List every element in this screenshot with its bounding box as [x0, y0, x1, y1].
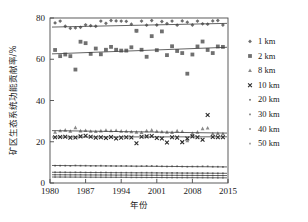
legend-item-10-km[interactable]: 10 km	[248, 80, 280, 90]
data-point-cross	[135, 141, 139, 145]
data-point-cross	[216, 135, 220, 139]
data-point-triangle	[150, 128, 154, 132]
data-point-square	[248, 54, 252, 58]
trend-line	[52, 165, 227, 166]
legend-item-40-km[interactable]: 40 km	[249, 124, 280, 134]
data-point-square	[104, 48, 108, 52]
data-point-cross	[129, 136, 133, 140]
legend-item-50-km[interactable]: 50 km	[249, 138, 280, 148]
data-point-triangle	[206, 126, 210, 130]
series-2-km	[52, 29, 227, 76]
data-point-square	[150, 34, 154, 38]
data-point-diamond	[180, 19, 184, 23]
data-point-diamond	[58, 19, 62, 23]
data-point-square	[79, 40, 83, 44]
data-point-diamond	[175, 23, 179, 27]
trend-line	[52, 23, 227, 27]
legend-label: 10 km	[258, 80, 280, 90]
data-point-cross	[145, 134, 149, 138]
x-axis-title: 年份	[130, 200, 148, 210]
data-point-cross	[74, 136, 78, 140]
trend-line	[52, 47, 227, 54]
data-point-diamond	[104, 21, 108, 25]
x-tick-label: 2008	[183, 186, 202, 196]
data-point-triangle	[196, 130, 200, 134]
data-point-triangle	[74, 126, 78, 130]
legend-label: 8 km	[258, 65, 276, 75]
data-point-square	[129, 45, 133, 49]
trend-line	[52, 177, 227, 178]
series-30-km	[52, 171, 227, 174]
trend-line	[52, 131, 227, 133]
x-tick-label: 2001	[148, 186, 166, 196]
series-1-km	[52, 19, 227, 33]
data-point-triangle	[248, 68, 252, 72]
data-point-diamond	[140, 19, 144, 23]
data-point-square	[53, 48, 57, 52]
data-point-cross	[165, 141, 169, 145]
data-point-cross	[191, 134, 195, 138]
data-point-diamond	[79, 25, 83, 29]
legend-label: 30 km	[258, 109, 280, 119]
x-tick-label: 1987	[77, 186, 96, 196]
data-point-cross	[68, 136, 72, 140]
trend-line	[52, 172, 227, 173]
data-point-diamond	[89, 24, 93, 28]
data-point-square	[191, 53, 195, 57]
legend-item-20-km[interactable]: 20 km	[249, 94, 280, 104]
data-point-cross	[150, 134, 154, 138]
data-point-square	[119, 49, 123, 53]
data-point-square	[145, 55, 149, 59]
data-point-square	[140, 48, 144, 52]
data-point-square	[84, 41, 88, 45]
series-10-km	[52, 113, 227, 145]
data-point-triangle	[124, 129, 128, 133]
legend-label: 50 km	[258, 138, 280, 148]
data-point-square	[160, 30, 164, 34]
data-point-triangle	[160, 130, 164, 134]
data-point-triangle	[175, 129, 179, 133]
data-point-square	[99, 52, 103, 56]
y-axis-title: 矿区生态系统功能贡献率/%	[8, 46, 18, 156]
series-50-km	[52, 176, 227, 179]
data-point-square	[124, 49, 128, 53]
data-point-diamond	[160, 20, 164, 24]
data-point-triangle	[119, 129, 123, 133]
data-point-square	[221, 45, 225, 49]
chart-container: 020406080198019871994200120082015 1 km2 …	[0, 0, 308, 222]
data-point-square	[175, 49, 179, 53]
series-20-km	[52, 165, 227, 168]
data-point-triangle	[221, 132, 225, 136]
data-point-diamond	[124, 19, 128, 23]
legend-label: 1 km	[258, 36, 276, 46]
legend-item-2-km[interactable]: 2 km	[248, 51, 276, 61]
legend-item-30-km[interactable]: 30 km	[249, 109, 280, 119]
legend-item-1-km[interactable]: 1 km	[248, 36, 276, 46]
data-point-square	[170, 44, 174, 48]
data-point-dot	[249, 99, 251, 101]
data-point-square	[74, 68, 78, 72]
data-point-diamond	[248, 40, 252, 44]
legend-item-8-km[interactable]: 8 km	[248, 65, 276, 75]
x-tick-label: 2015	[219, 186, 238, 196]
series-40-km	[52, 174, 227, 177]
data-point-dot	[249, 128, 251, 130]
data-point-square	[185, 72, 189, 76]
data-point-square	[180, 51, 184, 55]
data-point-dot	[249, 143, 251, 145]
data-point-square	[94, 47, 98, 51]
scatter-chart: 020406080198019871994200120082015 1 km2 …	[0, 0, 308, 222]
data-point-square	[165, 53, 169, 57]
legend-label: 2 km	[258, 51, 276, 61]
data-point-square	[201, 40, 205, 44]
data-point-cross	[248, 83, 252, 87]
data-point-diamond	[185, 20, 189, 24]
data-point-diamond	[150, 19, 154, 23]
data-point-diamond	[216, 19, 220, 23]
y-tick-label: 40	[36, 96, 46, 106]
data-point-dot	[249, 114, 251, 116]
data-point-square	[135, 29, 139, 33]
chart-series-layer	[52, 19, 227, 179]
y-tick-label: 80	[36, 13, 46, 23]
data-point-square	[58, 54, 62, 58]
